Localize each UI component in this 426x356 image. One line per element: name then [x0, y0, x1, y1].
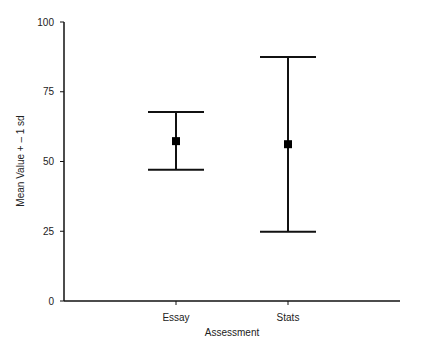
mean-marker — [284, 140, 292, 148]
x-axis-label: Assessment — [205, 327, 260, 338]
y-axis-label: Mean Value + – 1 sd — [15, 115, 26, 206]
error-bar-stats — [260, 57, 316, 232]
y-tick-label: 100 — [37, 17, 54, 28]
error-bar-chart: 0255075100 EssayStats Assessment Mean Va… — [0, 0, 426, 356]
error-bars — [148, 57, 316, 232]
mean-marker — [172, 137, 180, 145]
y-tick-label: 0 — [48, 296, 54, 307]
error-bar-essay — [148, 112, 204, 170]
y-tick-label: 50 — [43, 156, 55, 167]
x-tick-label: Stats — [277, 312, 300, 323]
y-tick-label: 75 — [43, 86, 55, 97]
x-axis: EssayStats — [64, 301, 400, 323]
y-tick-label: 25 — [43, 226, 55, 237]
x-tick-label: Essay — [162, 312, 189, 323]
y-axis: 0255075100 — [37, 17, 64, 307]
